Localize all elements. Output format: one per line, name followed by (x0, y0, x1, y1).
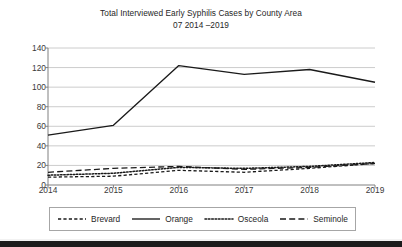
dashed-line-swatch (57, 215, 87, 223)
x-tick-2017: 2017 (235, 186, 254, 194)
solid-line-swatch (131, 215, 161, 223)
chart-title-line2: 07 2014 –2019 (0, 20, 402, 32)
plot-area: 020406080100120140 201420152016201720182… (0, 40, 402, 200)
legend-label-osceola: Osceola (238, 215, 268, 223)
x-tick-2015: 2015 (104, 186, 123, 194)
series-line-orange (48, 66, 375, 135)
plot-svg (0, 40, 402, 190)
legend-label-brevard: Brevard (91, 215, 120, 223)
x-tick-2018: 2018 (300, 186, 319, 194)
dotted-line-swatch (204, 215, 234, 223)
legend-item-brevard[interactable]: Brevard (57, 215, 120, 223)
x-tick-2016: 2016 (169, 186, 188, 194)
legend-item-osceola[interactable]: Osceola (204, 215, 268, 223)
chart-title-line1: Total Interviewed Early Syphilis Cases b… (0, 8, 402, 20)
legend-label-orange: Orange (165, 215, 193, 223)
x-axis-tick-labels: 201420152016201720182019 (0, 186, 402, 206)
bottom-dark-band (0, 241, 402, 247)
x-tick-2019: 2019 (366, 186, 385, 194)
chart-legend: BrevardOrangeOsceolaSeminole (49, 207, 356, 231)
longdash-line-swatch (279, 215, 309, 223)
chart-container: Total Interviewed Early Syphilis Cases b… (0, 0, 402, 240)
legend-label-seminole: Seminole (313, 215, 348, 223)
chart-title: Total Interviewed Early Syphilis Cases b… (0, 8, 402, 31)
x-tick-2014: 2014 (39, 186, 58, 194)
legend-item-seminole[interactable]: Seminole (279, 215, 348, 223)
legend-item-orange[interactable]: Orange (131, 215, 193, 223)
